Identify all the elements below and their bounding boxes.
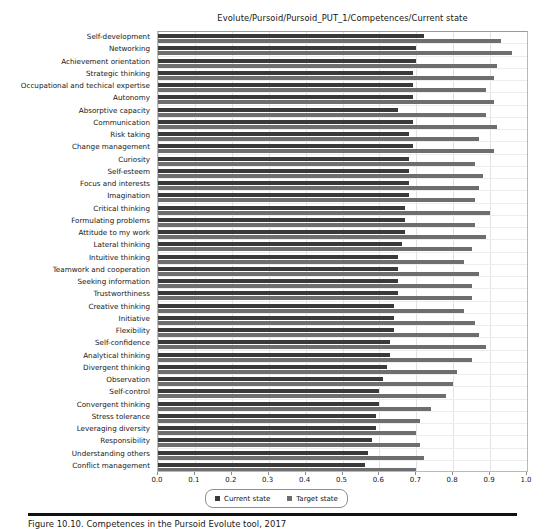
y-axis-tick-label: Risk taking (110, 131, 150, 139)
bar-current-state (158, 463, 365, 467)
legend-swatch-target-state (287, 496, 292, 501)
row-separator (158, 423, 527, 424)
bar-target-state (158, 358, 472, 362)
bar-current-state (158, 120, 413, 124)
y-axis-tick-label: Lateral thinking (94, 241, 151, 249)
bar-target-state (158, 272, 479, 276)
row-separator (158, 117, 527, 118)
row-separator (158, 386, 527, 387)
x-axis-tick-mark (231, 472, 232, 475)
bar-target-state (158, 88, 486, 92)
bar-current-state (158, 353, 390, 357)
bar-current-state (158, 426, 376, 430)
y-axis-tick-label: Leveraging diversity (77, 425, 150, 433)
bar-target-state (158, 76, 494, 80)
bar-target-state (158, 174, 483, 178)
x-axis-tick-mark (268, 472, 269, 475)
y-axis-tick-label: Critical thinking (93, 205, 150, 213)
y-axis-tick-label: Autonomy (113, 94, 150, 102)
row-separator (158, 264, 527, 265)
chart-legend: Current state Target state (205, 489, 348, 508)
y-axis-tick-label: Analytical thinking (83, 352, 150, 360)
x-axis-tick-mark (342, 472, 343, 475)
bar-target-state (158, 39, 501, 43)
y-axis-tick-label: Teamwork and cooperation (53, 266, 150, 274)
bar-target-state (158, 162, 475, 166)
bar-target-state (158, 198, 475, 202)
legend-label-current-state: Current state (224, 495, 270, 503)
bar-target-state (158, 309, 464, 313)
bar-target-state (158, 419, 420, 423)
row-separator (158, 154, 527, 155)
y-axis-tick-label: Self-development (87, 33, 150, 41)
row-separator (158, 166, 527, 167)
bar-current-state (158, 242, 402, 246)
row-separator (158, 129, 527, 130)
row-separator (158, 301, 527, 302)
y-axis-tick-label: Occupational and techical expertise (21, 82, 150, 90)
y-axis-tick-label: Self-control (109, 388, 150, 396)
figure-caption: Figure 10.10. Competences in the Pursoid… (28, 519, 517, 529)
bar-target-state (158, 456, 424, 460)
bar-target-state (158, 247, 472, 251)
bar-target-state (158, 100, 494, 104)
bar-target-state (158, 186, 479, 190)
row-separator (158, 374, 527, 375)
y-axis-tick-label: Stress tolerance (92, 413, 150, 421)
bar-current-state (158, 438, 372, 442)
bar-target-state (158, 125, 497, 129)
bar-current-state (158, 255, 398, 259)
y-axis-tick-label: Flexibility (116, 327, 150, 335)
grid-line (527, 32, 528, 471)
x-axis-tick-mark (526, 472, 527, 475)
bar-target-state (158, 137, 479, 141)
y-axis-tick-label: Trustworthiness (94, 290, 150, 298)
bar-current-state (158, 132, 409, 136)
legend-item-current-state: Current state (215, 495, 270, 503)
x-axis-tick-mark (194, 472, 195, 475)
plot-area (157, 31, 528, 472)
bar-current-state (158, 144, 413, 148)
x-axis-tick-mark (305, 472, 306, 475)
row-separator (158, 276, 527, 277)
row-separator (158, 448, 527, 449)
bar-target-state (158, 382, 453, 386)
bar-current-state (158, 340, 390, 344)
bar-target-state (158, 431, 416, 435)
x-axis-tick-label: 0.4 (299, 476, 310, 484)
bar-current-state (158, 304, 394, 308)
y-axis-tick-label: Divergent thinking (83, 364, 150, 372)
y-axis-tick-label: Initiative (119, 315, 150, 323)
y-axis-tick-label: Creative thinking (88, 303, 150, 311)
row-separator (158, 313, 527, 314)
row-separator (158, 252, 527, 253)
y-axis-tick-label: Absorptive capacity (79, 107, 150, 115)
y-axis-tick-label: Conflict management (72, 462, 150, 470)
y-axis-tick-label: Achievement orientation (61, 58, 150, 66)
bar-target-state (158, 149, 494, 153)
row-separator (158, 141, 527, 142)
bar-current-state (158, 365, 387, 369)
x-axis-tick-label: 0.0 (151, 476, 162, 484)
row-separator (158, 92, 527, 93)
row-separator (158, 362, 527, 363)
y-axis-tick-label: Intuitive thinking (89, 254, 150, 262)
x-axis-tick-label: 0.2 (225, 476, 236, 484)
bar-target-state (158, 296, 472, 300)
x-axis: 0.00.10.20.30.40.50.60.70.80.91.0 (157, 472, 528, 486)
x-axis-tick-label: 0.7 (410, 476, 421, 484)
row-separator (158, 56, 527, 57)
row-separator (158, 399, 527, 400)
bar-current-state (158, 230, 405, 234)
y-axis-tick-label: Focus and interests (80, 180, 150, 188)
y-axis-tick-label: Networking (109, 45, 150, 53)
bar-target-state (158, 51, 512, 55)
caption-divider (28, 513, 517, 516)
bar-current-state (158, 169, 409, 173)
row-separator (158, 80, 527, 81)
y-axis-tick-label: Observation (106, 376, 150, 384)
bar-current-state (158, 59, 416, 63)
bar-target-state (158, 407, 431, 411)
x-axis-tick-label: 1.0 (520, 476, 531, 484)
bar-target-state (158, 370, 457, 374)
